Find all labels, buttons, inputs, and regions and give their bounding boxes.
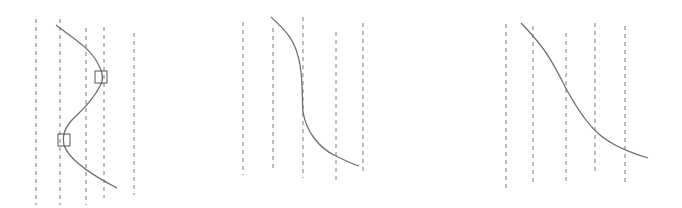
curve-diagram	[0, 0, 682, 208]
diagram-panel-2	[243, 17, 363, 180]
diagram-panel-1	[36, 19, 134, 205]
diagram-canvas	[0, 0, 682, 208]
diagram-panel-3	[506, 23, 648, 190]
square-marker-icon	[95, 71, 107, 83]
curve-line	[271, 17, 359, 166]
curve-line	[521, 23, 648, 158]
curve-line	[56, 25, 117, 188]
